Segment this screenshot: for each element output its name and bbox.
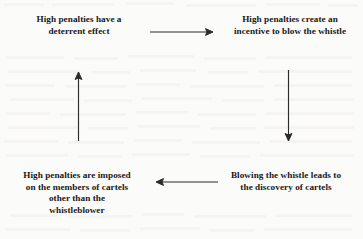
node-line: whistleblower xyxy=(6,205,148,217)
node-line: deterrent effect xyxy=(12,26,146,38)
node-line: the discovery of cartels xyxy=(216,182,356,194)
node-line: High penalties create an xyxy=(222,14,358,26)
arrow-incentive-to-discovery xyxy=(285,70,292,141)
node-line: incentive to blow the whistle xyxy=(222,26,358,38)
node-penalties-imposed-on-cartel-members: High penalties are imposed on the member… xyxy=(6,170,148,217)
node-line: High penalties are imposed xyxy=(6,170,148,182)
node-line: High penalties have a xyxy=(12,14,146,26)
node-line: other than the xyxy=(6,193,148,205)
arrow-discovery-to-imposed xyxy=(156,179,218,186)
node-line: Blowing the whistle leads to xyxy=(216,170,356,182)
node-line: on the members of cartels xyxy=(6,182,148,194)
node-discovery-of-cartels: Blowing the whistle leads to the discove… xyxy=(216,170,356,193)
node-incentive-to-blow-whistle: High penalties create an incentive to bl… xyxy=(222,14,358,37)
arrow-imposed-to-deterrent xyxy=(75,72,82,141)
node-deterrent-effect: High penalties have a deterrent effect xyxy=(12,14,146,37)
arrow-deterrent-to-incentive xyxy=(150,29,213,36)
cycle-diagram: High penalties have a deterrent effect H… xyxy=(0,0,363,239)
